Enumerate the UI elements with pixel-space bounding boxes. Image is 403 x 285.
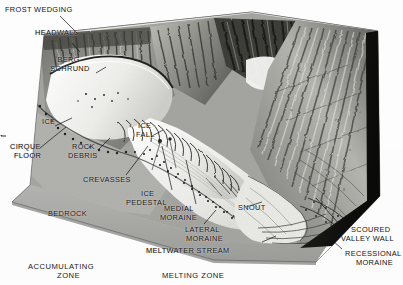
- label-bedrock: BEDROCK: [48, 210, 87, 218]
- label-frost-wedging: FROST WEDGING: [5, 6, 73, 14]
- label-headwall: HEADWALL: [35, 29, 78, 37]
- label-scoured-valley-wall-line2: VALLEY WALL: [341, 235, 394, 243]
- label-medial-moraine-line2: MORAINE: [160, 214, 197, 222]
- label-crevasses: CREVASSES: [83, 176, 131, 184]
- figure-canvas: FROST WEDGING HEADWALL BERG- SCHRUND ICE…: [0, 0, 403, 285]
- label-meltwater-stream: MELTWATER STREAM: [146, 247, 229, 255]
- label-ice-fall-line2: FALL: [136, 131, 155, 139]
- label-snout: SNOUT: [238, 204, 266, 212]
- label-accumulating-zone-line2: ZONE: [57, 272, 80, 280]
- label-rock-debris-line2: DEBRIS: [68, 152, 98, 160]
- label-recessional-moraine-line2: MORAINE: [356, 259, 393, 267]
- label-ice-pedestal-line2: PEDESTAL: [126, 199, 167, 207]
- label-bergschrund-line2: SCHRUND: [38, 65, 102, 73]
- label-cirque-floor-line2: FLOOR: [14, 152, 41, 160]
- label-ice: ICE: [42, 118, 55, 126]
- label-left-edge-tick: -: [0, 131, 3, 139]
- label-melting-zone: MELTING ZONE: [162, 272, 224, 280]
- label-lateral-moraine-line2: MORAINE: [186, 235, 223, 243]
